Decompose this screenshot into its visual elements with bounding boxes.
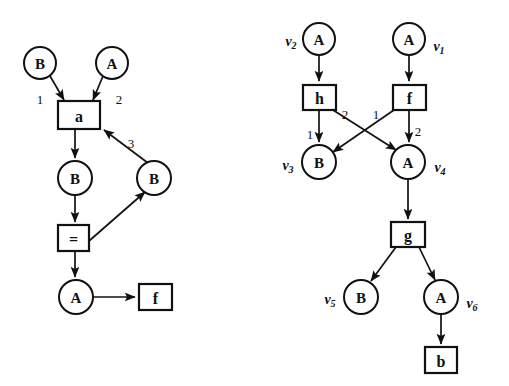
node-label: A [314,32,325,48]
vertex-label-v6: v6 [466,296,477,313]
box-label: g [404,227,412,245]
node-b-right[interactable]: B [137,161,171,195]
node-v4[interactable]: A [391,145,425,179]
node-label: B [149,171,159,187]
right-term-graph: 1 2 1 2 v2 v1 v3 v4 v5 v6 [282,23,477,373]
box-label: b [437,353,446,370]
node-label: A [107,56,118,72]
node-label: B [314,155,324,171]
port-label-3-left: 3 [128,136,135,151]
edge-g-to-v5 [371,247,396,281]
node-a-bottom[interactable]: A [59,280,93,314]
node-v2[interactable]: A [303,23,335,55]
port-label-2-left: 2 [116,92,123,107]
box-label: h [315,90,324,107]
port-label-f-2: 2 [415,124,422,139]
port-label-f-1: 1 [373,107,380,122]
node-box-a[interactable]: a [58,101,100,129]
diagram-canvas: 1 2 3 B A a B B [0,0,509,386]
node-box-equals[interactable]: = [58,225,89,251]
node-label: A [71,290,82,306]
port-label-h-2: 2 [342,107,349,122]
term-graph-figure: 1 2 3 B A a B B [0,0,509,386]
node-box-h[interactable]: h [303,85,336,110]
node-box-f-right[interactable]: f [393,85,426,110]
box-label: f [153,290,159,307]
node-b-mid[interactable]: B [58,161,92,195]
vertex-label-v2: v2 [285,34,296,51]
node-label: A [404,32,415,48]
node-b-top[interactable]: B [24,47,56,79]
port-label-1-left: 1 [37,92,44,107]
edge-a-top-to-a [93,76,103,100]
box-label: a [75,108,83,125]
edge-b-right-to-a-box [104,130,148,163]
node-label: B [356,290,366,306]
port-label-h-1: 1 [307,127,314,142]
node-v3[interactable]: B [302,145,336,179]
node-v1[interactable]: A [393,23,425,55]
node-box-b[interactable]: b [425,347,457,373]
node-label: A [403,155,414,171]
node-v5[interactable]: B [344,280,378,314]
node-v6[interactable]: A [424,280,458,314]
node-label: B [35,56,45,72]
node-a-top[interactable]: A [96,47,128,79]
vertex-label-v4: v4 [434,160,445,177]
box-label: f [407,90,413,107]
node-box-f-left[interactable]: f [139,284,172,310]
box-label: = [69,231,78,248]
node-label: A [436,290,447,306]
vertex-label-v5: v5 [324,292,335,309]
edge-eq-to-b-right [89,192,145,241]
node-label: B [70,171,80,187]
edge-g-to-v6 [419,247,435,280]
left-term-graph: 1 2 3 B A a B B [24,47,172,314]
vertex-label-v1: v1 [433,39,444,56]
edge-b-top-to-a [50,76,64,100]
vertex-label-v3: v3 [282,158,293,175]
node-box-g[interactable]: g [391,222,425,247]
